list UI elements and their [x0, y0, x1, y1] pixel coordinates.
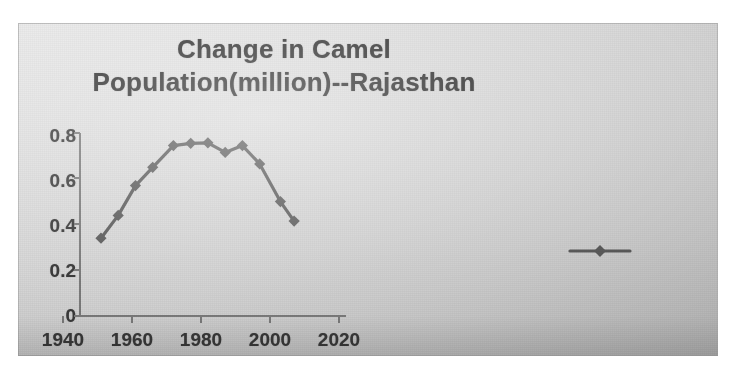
data-point-marker — [185, 138, 196, 149]
plot-area — [18, 23, 718, 356]
screenshot-root: Change in Camel Population(million)--Raj… — [0, 0, 734, 386]
axis-lines — [80, 133, 346, 316]
chart-svg — [18, 23, 718, 356]
data-series-camel-population — [95, 137, 299, 244]
series-markers — [95, 137, 299, 244]
series-line — [101, 143, 294, 238]
legend — [570, 245, 630, 257]
y-axis-ticks — [74, 133, 80, 316]
chart-figure: Change in Camel Population(million)--Raj… — [18, 23, 718, 356]
x-axis-ticks — [63, 316, 339, 323]
legend-marker-diamond — [594, 245, 606, 257]
